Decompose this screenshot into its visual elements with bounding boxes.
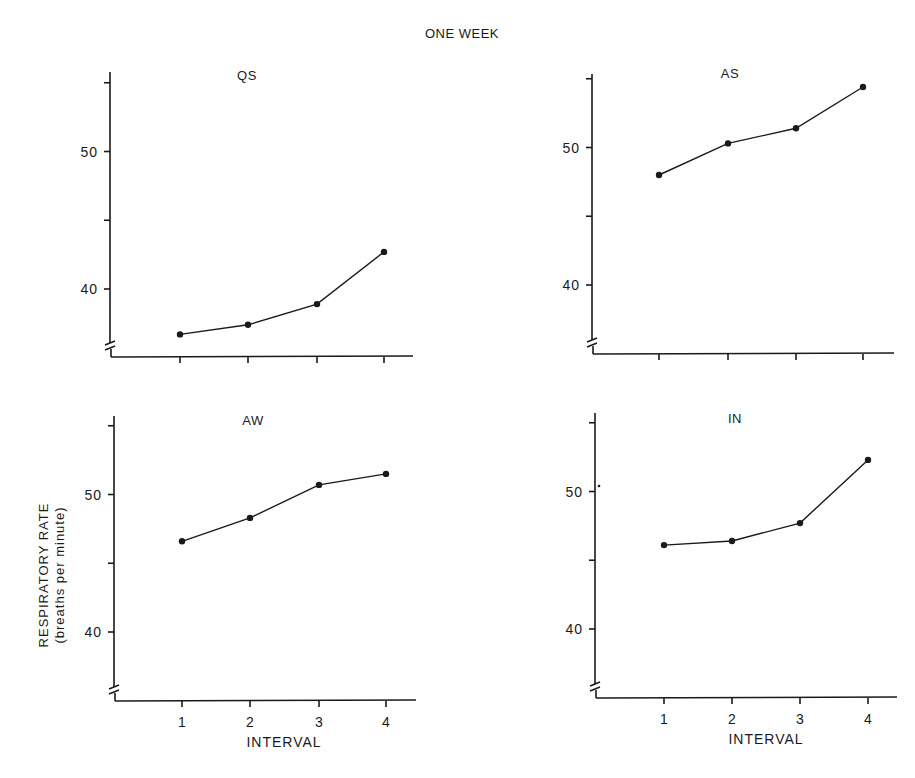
data-point bbox=[725, 140, 731, 146]
x-tick-label: 3 bbox=[796, 711, 804, 727]
data-point bbox=[179, 538, 185, 544]
y-tick-label: 40 bbox=[84, 624, 102, 640]
axis-break-icon bbox=[109, 685, 119, 694]
series-line bbox=[180, 252, 384, 335]
x-axis-line bbox=[593, 353, 894, 354]
data-point bbox=[797, 520, 803, 526]
x-tick-label: 4 bbox=[864, 711, 872, 727]
y-tick-label: 40 bbox=[562, 277, 580, 293]
y-tick-label: 50 bbox=[562, 140, 580, 156]
data-point bbox=[381, 249, 387, 255]
y-axis-label: RESPIRATORY RATE (breaths per minute) bbox=[36, 503, 67, 648]
y-tick-label: 50 bbox=[80, 144, 98, 160]
x-axis-line bbox=[115, 700, 416, 701]
data-point bbox=[793, 125, 799, 131]
x-axis-label: INTERVAL bbox=[246, 734, 321, 750]
panel-as: AS4050 bbox=[562, 66, 894, 360]
figure-title: ONE WEEK bbox=[425, 26, 499, 41]
data-point bbox=[247, 515, 253, 521]
x-axis-line bbox=[111, 356, 413, 357]
x-tick-label: 2 bbox=[728, 711, 736, 727]
panel-qs: QS4050 bbox=[80, 68, 413, 363]
x-tick-label: 4 bbox=[382, 714, 390, 730]
data-point bbox=[656, 172, 662, 178]
series-line bbox=[182, 474, 386, 541]
data-point bbox=[177, 331, 183, 337]
data-point bbox=[314, 301, 320, 307]
panel-title: AW bbox=[242, 413, 264, 428]
figure: ONE WEEK RESPIRATORY RATE (breaths per m… bbox=[0, 0, 915, 778]
panel-title: AS bbox=[721, 66, 739, 81]
data-point bbox=[729, 538, 735, 544]
series-line bbox=[659, 87, 863, 175]
data-point bbox=[661, 542, 667, 548]
data-point bbox=[865, 457, 871, 463]
data-point bbox=[316, 482, 322, 488]
y-tick-label: 40 bbox=[565, 621, 583, 637]
panel-title: QS bbox=[237, 68, 257, 83]
axis-break-icon bbox=[587, 338, 597, 347]
x-tick-label: 3 bbox=[315, 714, 323, 730]
axis-break-icon bbox=[590, 682, 600, 691]
data-point bbox=[245, 322, 251, 328]
x-tick-label: 2 bbox=[246, 714, 254, 730]
data-point bbox=[860, 84, 866, 90]
x-axis-label: INTERVAL bbox=[728, 731, 803, 747]
data-point bbox=[383, 471, 389, 477]
axis-break-icon bbox=[105, 341, 115, 350]
y-axis-label-line1: RESPIRATORY RATE bbox=[36, 503, 51, 648]
y-tick-label: 50 bbox=[84, 487, 102, 503]
series-line bbox=[664, 460, 868, 545]
y-axis-label-line2: (breaths per minute) bbox=[52, 506, 67, 643]
y-tick-label: 40 bbox=[80, 281, 98, 297]
x-tick-label: 1 bbox=[660, 711, 668, 727]
y-tick-label: 50 bbox=[565, 484, 583, 500]
panel-title: IN bbox=[728, 411, 742, 426]
panel-in: IN40501234INTERVAL bbox=[565, 411, 897, 747]
panel-aw: AW40501234INTERVAL bbox=[84, 413, 416, 750]
x-tick-label: 1 bbox=[178, 714, 186, 730]
scan-speck bbox=[598, 485, 601, 488]
x-axis-line bbox=[596, 697, 897, 698]
